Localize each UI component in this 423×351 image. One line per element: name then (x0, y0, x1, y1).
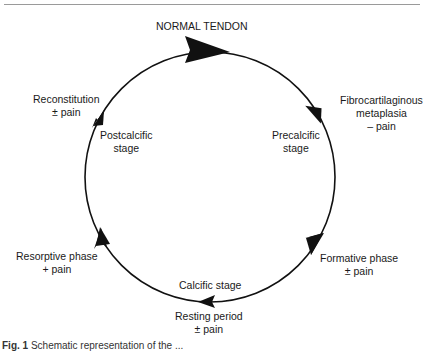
label-calcific: Calcific stage (179, 279, 241, 292)
label-resting: Resting period ± pain (175, 310, 243, 336)
cycle-circle (85, 52, 335, 302)
label-fibrocartilaginous: Fibrocartilaginous metaplasia – pain (340, 94, 423, 133)
diagram-title: NORMAL TENDON (156, 20, 248, 33)
label-precalcific: Precalcific stage (272, 129, 320, 155)
label-resorptive: Resorptive phase + pain (16, 250, 98, 276)
label-formative: Formative phase ± pain (320, 252, 398, 278)
label-reconstitution: Reconstitution ± pain (33, 93, 100, 119)
arrow-top-icon (185, 36, 230, 63)
figure-caption: Fig. 1 Schematic representation of the .… (2, 340, 183, 351)
label-postcalcific: Postcalcific stage (100, 129, 153, 155)
arrow-upper-right-icon (305, 104, 323, 124)
